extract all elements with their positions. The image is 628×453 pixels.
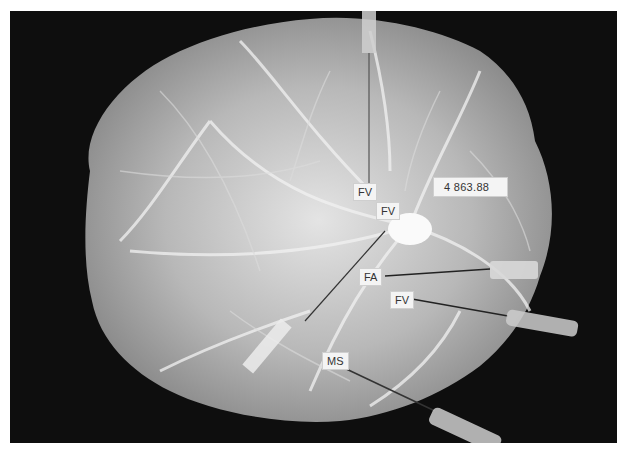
specimen-photo: 4 863.88 FV FV FA FV MS	[10, 11, 617, 443]
label-fv-top: FV	[353, 183, 377, 201]
placenta-specimen-graphic	[10, 11, 617, 443]
label-fv-lower: FV	[390, 291, 414, 309]
cannula-fa	[490, 261, 538, 279]
cannula-top	[362, 11, 376, 53]
weight-label: 4 863.88	[433, 177, 508, 197]
cannula-ms	[427, 406, 503, 443]
cannula-fv-lower	[505, 309, 579, 337]
placenta-body	[85, 18, 552, 422]
label-fa: FA	[359, 268, 382, 286]
label-ms: MS	[322, 352, 349, 370]
label-fv-middle: FV	[376, 202, 400, 220]
